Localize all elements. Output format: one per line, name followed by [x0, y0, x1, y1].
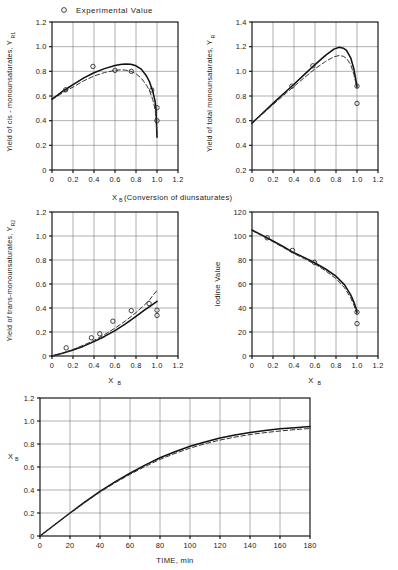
xtick-label: 1.2 — [373, 175, 384, 184]
series-model-solid — [252, 47, 357, 123]
xtick-label: 0.6 — [110, 175, 121, 184]
series-model-solid — [52, 64, 157, 137]
series-model-solid — [40, 427, 310, 536]
ytick-label: 0.8 — [36, 256, 47, 265]
chart-cis-monounsaturates: 00.20.40.60.81.01.200.20.40.60.81.01.2Yi… — [0, 14, 198, 194]
ytick-label: 0.4 — [236, 141, 247, 150]
xtick-label: 1.2 — [373, 361, 384, 370]
xtick-label: 1.0 — [152, 361, 163, 370]
xlabel-main: X — [108, 376, 113, 385]
xtick-label: 180 — [304, 541, 317, 550]
ytick-label: 0.4 — [36, 116, 47, 125]
ytick-label: 0.4 — [36, 304, 47, 313]
ytick-label: 1.0 — [36, 42, 47, 51]
xtick-label: 0.6 — [310, 175, 321, 184]
xtick-label: 1.2 — [173, 361, 184, 370]
xtick-label: 0.8 — [331, 175, 342, 184]
xtick-label: 40 — [96, 541, 105, 550]
xtick-label: 0.4 — [289, 175, 300, 184]
xtick-label: 60 — [126, 541, 135, 550]
data-point — [147, 301, 151, 305]
xtick-label: 0.4 — [89, 361, 100, 370]
ylabel-subscript: R1 — [10, 32, 16, 39]
xtick-label: 0.2 — [68, 175, 79, 184]
ytick-label: 0 — [42, 166, 46, 175]
xtick-label: 1.0 — [352, 175, 363, 184]
xtick-label: 0.2 — [268, 175, 279, 184]
ylabel-main: Iodine Value — [213, 261, 222, 306]
xtick-label: 140 — [244, 541, 257, 550]
xtick-label: 80 — [156, 541, 165, 550]
ytick-label: 1.2 — [236, 42, 247, 51]
xtick-label: 0 — [50, 361, 54, 370]
xtick-label: 0 — [250, 175, 254, 184]
xtick-label: 0.8 — [331, 361, 342, 370]
shared-xlabel-top: X B (Conversion of diunsaturates) — [0, 190, 398, 204]
ylabel-group: Yield of trans-monounsaturates, Y — [5, 227, 14, 342]
ytick-label: 1.2 — [36, 208, 47, 217]
ylabel-sub-group: R — [210, 35, 216, 39]
xtick-label: 120 — [214, 541, 227, 550]
chart-iodine-value: 00.20.40.60.81.01.2020406080100120Iodine… — [200, 206, 398, 396]
ylabel-group: Yield of total monounsaturates, Y — [205, 40, 214, 152]
ytick-label: 1.0 — [24, 417, 35, 426]
ytick-label: 0.6 — [36, 280, 47, 289]
circle-open-marker — [62, 8, 67, 13]
ytick-label: 0 — [30, 532, 34, 541]
ytick-label: 0 — [42, 352, 46, 361]
xlabel-main: TIME, min — [156, 556, 193, 565]
ytick-label: 1.4 — [236, 18, 247, 27]
ytick-label: 0.8 — [236, 92, 247, 101]
ytick-label: 80 — [238, 256, 247, 265]
chart-conversion-vs-time: 02040608010012014016018000.20.40.60.81.0… — [0, 392, 330, 567]
xtick-label: 0.2 — [68, 361, 79, 370]
xtick-label: 0.2 — [268, 361, 279, 370]
series-model-dashed — [252, 56, 357, 124]
xtick-label: 0.4 — [289, 361, 300, 370]
xtick-label: 0.8 — [131, 361, 142, 370]
ylabel-main: Yield of total monounsaturates, Y — [205, 40, 214, 152]
xtick-label: 0.6 — [110, 361, 121, 370]
ytick-label: 60 — [238, 280, 247, 289]
series-model-solid — [52, 301, 157, 356]
figure-root: Experimental Value 00.20.40.60.81.01.200… — [0, 0, 398, 570]
ytick-label: 100 — [234, 232, 247, 241]
xtick-label: 0 — [38, 541, 42, 550]
series-model-solid — [252, 230, 357, 312]
series-model-dashed — [40, 428, 310, 536]
ytick-label: 0.6 — [36, 92, 47, 101]
xtick-label: 0 — [250, 361, 254, 370]
xtick-label: 20 — [66, 541, 75, 550]
series-model-dashed — [252, 231, 357, 314]
xtick-label: 1.0 — [152, 175, 163, 184]
chart-trans-monounsaturates: 00.20.40.60.81.01.200.20.40.60.81.01.2Yi… — [0, 206, 198, 396]
ytick-label: 1.0 — [36, 232, 47, 241]
xtick-label: 0.6 — [310, 361, 321, 370]
ytick-label: 0.2 — [36, 141, 47, 150]
ytick-label: 0.2 — [36, 328, 47, 337]
ylabel-group: Yield of cis - monounsaturates, Y — [5, 40, 14, 152]
shared-xlabel-main: X — [112, 193, 117, 202]
ytick-label: 0.8 — [36, 67, 47, 76]
data-point — [111, 319, 115, 323]
ytick-label: 0 — [242, 352, 246, 361]
ylabel-sub-group: R1 — [10, 32, 16, 39]
xtick-label: 0 — [50, 175, 54, 184]
data-point — [89, 336, 93, 340]
ylabel-subscript: R2 — [10, 220, 16, 227]
ylabel-main: Yield of trans-monounsaturates, Y — [5, 227, 14, 342]
ylabel-group: Iodine Value — [213, 261, 222, 306]
shared-xlabel-sub: B — [119, 197, 123, 203]
xlabel-main: X — [308, 376, 313, 385]
ylabel-main: Yield of cis - monounsaturates, Y — [5, 40, 14, 152]
series-model-dashed — [52, 70, 157, 134]
data-point — [129, 308, 133, 312]
ytick-label: 1.2 — [36, 18, 47, 27]
ytick-label: 1.0 — [236, 67, 247, 76]
xlabel-subscript: B — [118, 380, 122, 386]
ytick-label: 0.8 — [24, 440, 35, 449]
xtick-label: 1.0 — [352, 361, 363, 370]
ylabel-sub-group: R2 — [10, 220, 16, 227]
ytick-label: 0.6 — [236, 116, 247, 125]
ytick-label: 20 — [238, 328, 247, 337]
